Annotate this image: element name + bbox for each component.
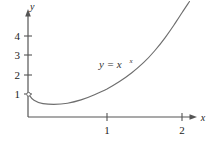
x-tick-label-2: 2	[179, 124, 185, 136]
x-tick-label-1: 1	[104, 124, 110, 136]
y-axis-title: y	[29, 1, 35, 12]
y-tick-label-1: 1	[15, 88, 21, 100]
plot-background	[0, 0, 220, 141]
y-tick-label-3: 3	[15, 49, 21, 61]
curve-start-open-point	[27, 92, 31, 96]
y-tick-label-2: 2	[15, 69, 21, 81]
y-tick-label-4: 4	[15, 30, 21, 42]
equation-base: y = x	[98, 58, 122, 70]
x-axis-title: x	[200, 112, 206, 123]
xx-function-plot: 1 2 3 4 1 2 y x y = x x	[0, 0, 220, 141]
figure-container: 1 2 3 4 1 2 y x y = x x	[0, 0, 220, 141]
